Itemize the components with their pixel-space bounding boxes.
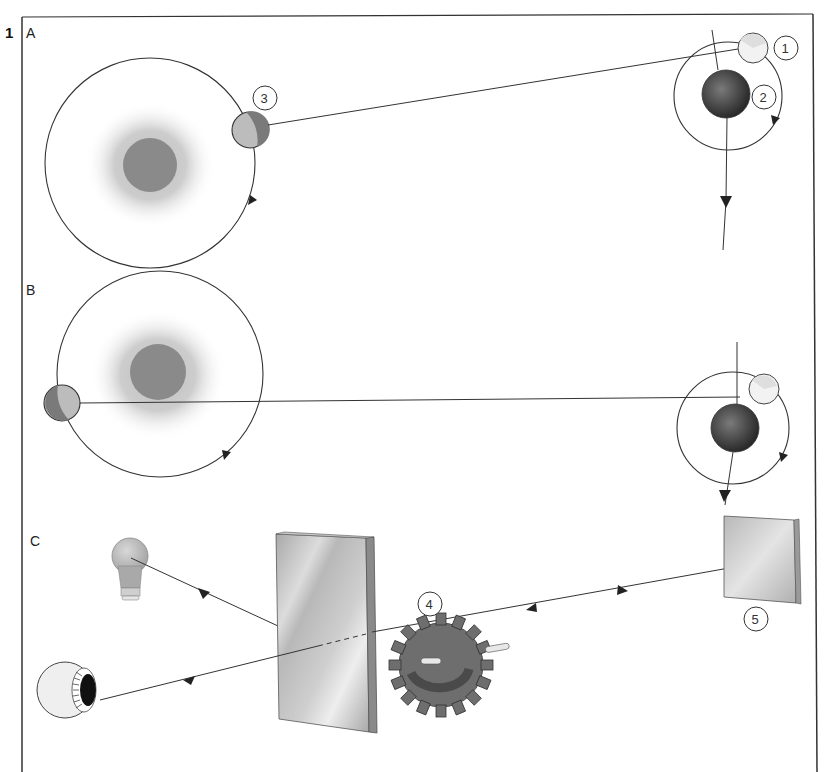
earth-icon — [44, 385, 80, 421]
shadow-path — [712, 30, 718, 70]
svg-text:3: 3 — [261, 91, 268, 106]
shadow-arrow-icon — [720, 196, 732, 208]
orbit-arrow-icon — [779, 452, 788, 462]
shadow-arrow-icon — [719, 490, 731, 502]
sun-icon — [85, 102, 215, 228]
light-bulb-icon — [112, 538, 148, 600]
ray-arrow-icon — [198, 588, 210, 599]
light-path — [268, 49, 738, 125]
callout-5: 5 — [744, 607, 768, 631]
distant-mirror — [724, 516, 801, 604]
panel-label-c: C — [30, 533, 40, 549]
jupiter-icon — [711, 404, 759, 452]
earth-icon — [232, 111, 270, 148]
ray-arrow-icon — [183, 676, 195, 685]
svg-text:4: 4 — [426, 597, 433, 612]
panel-a: 3 1 2 — [45, 30, 798, 268]
sun-icon — [90, 310, 226, 440]
svg-text:2: 2 — [760, 90, 767, 105]
orbit-arrow-icon — [771, 115, 780, 125]
svg-text:5: 5 — [752, 612, 759, 627]
callout-2: 2 — [752, 85, 776, 109]
light-speed-diagram: 1 A B C 3 — [0, 0, 834, 772]
cogwheel-icon — [389, 613, 510, 717]
shadow-path — [723, 117, 727, 250]
panel-label-a: A — [26, 25, 36, 41]
svg-text:1: 1 — [782, 41, 789, 56]
callout-3: 3 — [253, 86, 277, 110]
panel-c: 4 5 — [37, 516, 801, 733]
orbit-arrow-icon — [222, 450, 231, 460]
callout-1: 1 — [774, 36, 798, 60]
jupiter-icon — [702, 70, 750, 118]
panel-label-b: B — [26, 282, 35, 298]
half-silvered-mirror — [276, 532, 377, 733]
eye-icon — [37, 662, 96, 718]
panel-b — [44, 271, 789, 505]
callout-4: 4 — [418, 592, 442, 616]
figure-number: 1 — [5, 24, 13, 41]
